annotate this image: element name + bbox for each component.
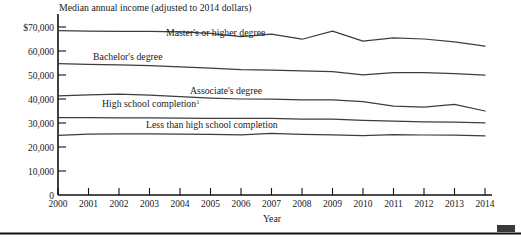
y-tick-label-30000: 30,000 <box>28 119 54 129</box>
x-tick-label-2006: 2006 <box>232 199 251 209</box>
y-tick-labels-group: $70,000 60,000 50,000 40,000 30,000 20,0… <box>23 23 54 201</box>
series-label-associates: Associate's degree <box>190 85 263 96</box>
x-ticks-group <box>58 188 485 195</box>
x-tick-label-2012: 2012 <box>415 199 434 209</box>
series-label-masters: Master's or higher degree <box>166 27 266 38</box>
y-tick-label-10000: 10,000 <box>28 167 54 177</box>
chart-title: Median annual income (adjusted to 2014 d… <box>59 2 252 14</box>
y-tick-label-50000: 50,000 <box>28 71 54 81</box>
series-label-high-school-footnote: 1 <box>196 98 199 105</box>
x-tick-label-2007: 2007 <box>262 199 281 209</box>
series-label-high-school-text: High school completion <box>102 98 196 109</box>
series-line-bachelors <box>58 64 485 76</box>
footer-end-mark <box>497 225 515 232</box>
x-tick-label-2002: 2002 <box>110 199 129 209</box>
y-tick-label-60000: 60,000 <box>28 47 54 57</box>
x-tick-label-2008: 2008 <box>293 199 312 209</box>
x-tick-label-2014: 2014 <box>476 199 495 209</box>
x-tick-label-2001: 2001 <box>79 199 98 209</box>
x-tick-label-2009: 2009 <box>323 199 342 209</box>
x-axis-title: Year <box>263 213 282 224</box>
y-ticks-group <box>58 27 66 171</box>
x-tick-label-2003: 2003 <box>140 199 159 209</box>
series-label-less-than-high-school: Less than high school completion <box>146 119 278 130</box>
x-tick-labels-group: 2000 2001 2002 2003 2004 2005 2006 2007 … <box>49 199 495 209</box>
x-tick-label-2005: 2005 <box>201 199 220 209</box>
series-labels-group: Master's or higher degree Bachelor's deg… <box>93 27 278 130</box>
y-tick-label-20000: 20,000 <box>28 143 54 153</box>
line-chart-svg: $70,000 60,000 50,000 40,000 30,000 20,0… <box>0 0 521 240</box>
x-tick-label-2000: 2000 <box>49 199 68 209</box>
x-tick-label-2010: 2010 <box>354 199 373 209</box>
y-tick-label-70000: $70,000 <box>23 23 54 33</box>
chart-figure: $70,000 60,000 50,000 40,000 30,000 20,0… <box>0 0 521 240</box>
x-tick-label-2004: 2004 <box>171 199 190 209</box>
series-line-masters <box>58 31 485 47</box>
series-label-high-school: High school completion1 <box>102 98 199 110</box>
y-tick-label-40000: 40,000 <box>28 95 54 105</box>
x-tick-label-2011: 2011 <box>384 199 403 209</box>
series-line-less-than-high-school <box>58 133 485 136</box>
footer-divider <box>0 225 521 234</box>
x-tick-label-2013: 2013 <box>445 199 464 209</box>
series-label-bachelors: Bachelor's degree <box>93 51 163 62</box>
